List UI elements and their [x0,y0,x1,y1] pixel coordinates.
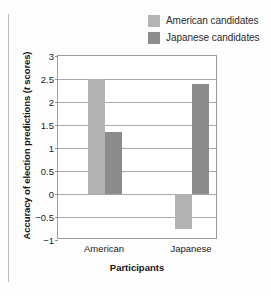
gridline [58,79,216,80]
x-axis-title: Participants [57,262,217,273]
y-tick-mark [55,217,58,218]
y-tick-mark [55,56,58,57]
chart-legend: American candidates Japanese candidates [148,13,271,47]
gridline [58,217,216,218]
y-tick-mark [55,102,58,103]
y-tick-label: 0.5 [8,166,54,177]
y-tick-mark [55,79,58,80]
y-tick-label: −0.5 [8,212,54,223]
legend-item-japanese-candidates: Japanese candidates [148,30,271,45]
y-tick-label: 2.5 [8,74,54,85]
legend-swatch-icon-japanese [148,32,160,44]
y-tick-label: 2 [8,97,54,108]
x-tick-label-japanese: Japanese [170,243,211,254]
y-tick-label: 1.5 [8,120,54,131]
legend-label-japanese: Japanese candidates [166,32,260,43]
y-tick-mark [55,240,58,241]
y-tick-mark [55,194,58,195]
legend-item-american-candidates: American candidates [148,13,271,28]
y-tick-mark [55,148,58,149]
bar-japanese-american-candidates [175,194,192,229]
bar-american-japanese-candidates [105,132,122,194]
x-tick-label-american: American [84,243,124,254]
legend-label-american: American candidates [166,15,258,26]
bar-american-american-candidates [88,79,105,194]
y-tick-mark [55,125,58,126]
plot-area: 32.521.510.50−0.5−1 [57,55,217,239]
y-axis-title-italic-t: t [21,87,32,90]
gridline [58,194,216,195]
figure-container: American candidates Japanese candidates … [0,0,271,296]
y-tick-label: −1 [8,235,54,246]
y-tick-label: 3 [8,51,54,62]
y-tick-mark [55,171,58,172]
bar-japanese-japanese-candidates [192,84,209,194]
legend-swatch-icon-american [148,15,160,27]
y-tick-label: 1 [8,143,54,154]
y-tick-label: 0 [8,189,54,200]
